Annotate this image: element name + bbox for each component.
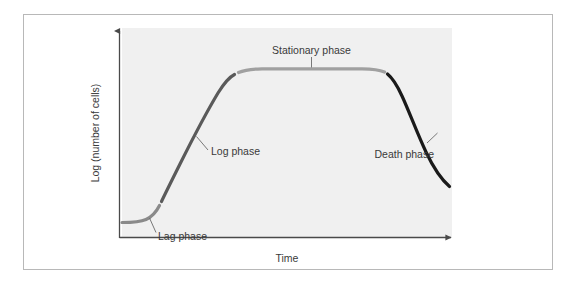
label-stationary-phase: Stationary phase	[272, 44, 351, 56]
y-axis-label: Log (number of cells)	[89, 84, 101, 183]
label-log-phase: Log phase	[211, 145, 260, 157]
label-death-phase: Death phase	[374, 148, 434, 160]
x-axis-label: Time	[276, 252, 299, 264]
plot-panel	[122, 28, 452, 238]
label-lag-phase: Lag phase	[158, 230, 207, 242]
figure-root: Lag phase Log phase Stationary phase Dea…	[0, 0, 576, 283]
growth-curve-chart: Lag phase Log phase Stationary phase Dea…	[0, 0, 576, 283]
